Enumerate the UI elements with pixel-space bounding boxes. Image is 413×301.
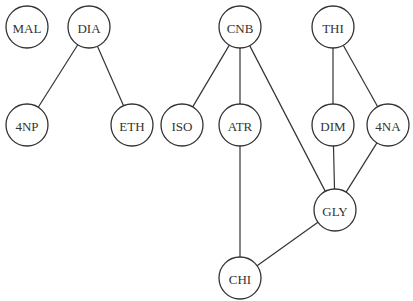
edge-dia-4np: [38, 45, 78, 108]
node-mal: MAL: [6, 6, 48, 48]
node-label: DIM: [320, 119, 346, 134]
node-label: DIA: [77, 21, 101, 36]
node-iso: ISO: [161, 104, 203, 146]
edge-dia-eth: [97, 46, 123, 106]
edge-layer: [38, 45, 377, 266]
node-thi: THI: [312, 6, 354, 48]
edge-gly-chi: [257, 222, 318, 266]
node-layer: MALDIACNBTHI4NPETHISOATRDIM4NAGLYCHI: [6, 6, 409, 299]
node-label: ATR: [228, 119, 253, 134]
node-label: THI: [322, 21, 344, 36]
node-label: ETH: [119, 119, 144, 134]
edge-cnb-iso: [193, 45, 230, 107]
edge-thi-4na: [343, 45, 377, 106]
node-label: GLY: [322, 204, 348, 219]
node-dia: DIA: [68, 6, 110, 48]
node-label: ISO: [172, 119, 193, 134]
node-atr: ATR: [219, 104, 261, 146]
edge-dim-gly: [333, 146, 334, 189]
node-label: 4NP: [15, 119, 38, 134]
node-label: CHI: [229, 272, 251, 287]
graph-diagram: MALDIACNBTHI4NPETHISOATRDIM4NAGLYCHI: [0, 0, 413, 301]
node-dim: DIM: [312, 104, 354, 146]
node-label: CNB: [227, 21, 254, 36]
node-4na: 4NA: [367, 104, 409, 146]
node-label: MAL: [13, 21, 42, 36]
node-4np: 4NP: [6, 104, 48, 146]
node-eth: ETH: [111, 104, 153, 146]
node-cnb: CNB: [219, 6, 261, 48]
node-gly: GLY: [314, 189, 356, 231]
node-chi: CHI: [219, 257, 261, 299]
node-label: 4NA: [375, 119, 401, 134]
edge-4na-gly: [346, 143, 377, 192]
